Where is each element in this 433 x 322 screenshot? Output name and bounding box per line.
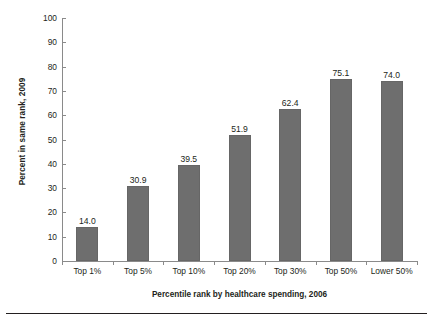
chart-figure: Percent in same rank, 2009 0102030405060… [0,0,433,322]
bar: 62.4 [279,109,301,261]
x-tick-mark [417,261,418,265]
y-tick-label: 100 [43,13,57,23]
y-axis-title: Percent in same rank, 2009 [15,0,31,262]
bar: 14.0 [76,227,98,261]
bar: 30.9 [127,186,149,261]
x-category-label: Lower 50% [371,266,413,276]
bar-value-label: 74.0 [383,70,400,80]
x-tick-mark [163,261,164,265]
y-tick-label: 90 [48,37,57,47]
bar: 51.9 [229,135,251,261]
x-category-label: Top 1% [73,266,101,276]
y-tick-label: 30 [48,183,57,193]
y-tick-label: 0 [52,256,57,266]
x-category-label: Top 50% [325,266,358,276]
bar: 74.0 [381,81,403,261]
plot-area: 0102030405060708090100 14.030.939.551.96… [62,18,417,262]
bar-value-label: 75.1 [333,68,350,78]
x-axis-line [62,261,417,262]
x-tick-mark [265,261,266,265]
x-axis-title: Percentile rank by healthcare spending, … [62,290,417,299]
x-category-label: Top 10% [172,266,205,276]
y-tick-label: 70 [48,86,57,96]
bar-value-label: 30.9 [130,175,147,185]
bottom-divider-rule [6,313,427,314]
y-tick-label: 60 [48,110,57,120]
y-tick-label: 40 [48,159,57,169]
bars-group: 14.030.939.551.962.475.174.0 [62,18,417,261]
y-tick-label: 20 [48,207,57,217]
x-axis-category-labels: Top 1%Top 5%Top 10%Top 20%Top 30%Top 50%… [62,266,417,280]
y-axis-title-text: Percent in same rank, 2009 [19,77,28,185]
bar-value-label: 39.5 [180,154,197,164]
x-tick-mark [316,261,317,265]
x-category-label: Top 20% [223,266,256,276]
x-category-label: Top 5% [124,266,152,276]
bar: 39.5 [178,165,200,261]
y-tick-label: 80 [48,62,57,72]
bar: 75.1 [330,79,352,261]
bar-value-label: 62.4 [282,98,299,108]
x-tick-mark [366,261,367,265]
x-tick-mark [214,261,215,265]
x-tick-mark [62,261,63,265]
x-tick-mark [113,261,114,265]
x-category-label: Top 30% [274,266,307,276]
y-tick-label: 50 [48,135,57,145]
bar-value-label: 14.0 [79,216,96,226]
y-tick-label: 10 [48,232,57,242]
bar-value-label: 51.9 [231,124,248,134]
